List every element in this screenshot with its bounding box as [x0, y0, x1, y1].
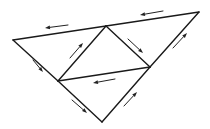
right-lower-edge [102, 67, 150, 122]
arrow-top-left-icon [45, 25, 68, 29]
inner-left-edge [58, 26, 106, 81]
flow-diagram [0, 0, 210, 129]
arrow-inner-middle-icon [93, 79, 115, 84]
inner-right-edge [106, 26, 150, 67]
left-lower-edge [58, 81, 102, 122]
left-upper-edge [13, 40, 58, 81]
right-upper-edge [150, 12, 199, 67]
diagram-arrows [33, 11, 187, 113]
arrow-top-right-icon [140, 11, 163, 16]
inner-middle-edge [58, 67, 150, 81]
arrow-inner-right-icon [128, 39, 143, 53]
arrow-inner-left-icon [70, 43, 83, 58]
top-right-edge [106, 12, 199, 26]
diagram-edges [13, 12, 199, 122]
arrow-right-upper-icon [173, 33, 187, 48]
top-left-edge [13, 26, 106, 40]
